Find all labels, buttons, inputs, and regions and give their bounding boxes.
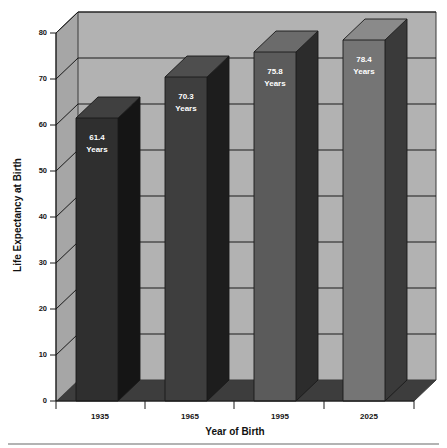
bar-label-2025-unit: Years <box>353 67 375 76</box>
bar-label-1995-value: 75.8 <box>267 67 283 76</box>
y-tick-label-70: 70 <box>39 74 47 83</box>
bar-2025-front <box>343 40 385 401</box>
bar-label-1935-value: 61.4 <box>89 133 105 142</box>
y-tick-label-20: 20 <box>39 304 47 313</box>
bar-label-1935-unit: Years <box>86 145 108 154</box>
bar-1935[interactable] <box>76 97 140 401</box>
y-axis-title: Life Expectancy at Birth <box>12 158 23 272</box>
x-axis: 1935 1965 1995 2025 Year of Birth <box>56 401 414 437</box>
y-tick-label-60: 60 <box>39 120 47 129</box>
bar-label-1965-value: 70.3 <box>178 92 194 101</box>
x-tick-label-1965: 1965 <box>181 412 199 421</box>
y-axis: 0 10 20 30 40 50 60 70 80 Life Expectanc… <box>12 28 56 405</box>
bar-2025[interactable] <box>343 19 407 401</box>
x-tick-label-2025: 2025 <box>360 412 378 421</box>
bar-label-1965-unit: Years <box>175 104 197 113</box>
bar-1935-side <box>118 97 140 401</box>
x-tick-label-1935: 1935 <box>91 412 109 421</box>
chart-figure: 0 10 20 30 40 50 60 70 80 Life Expectanc… <box>0 0 447 448</box>
bar-1965-front <box>165 77 207 401</box>
y-tick-label-10: 10 <box>39 350 47 359</box>
bar-label-1995-unit: Years <box>264 79 286 88</box>
bar-label-2025-value: 78.4 <box>356 55 372 64</box>
y-tick-label-50: 50 <box>39 166 47 175</box>
bar-1995-side <box>296 31 318 401</box>
y-tick-label-80: 80 <box>39 28 47 37</box>
y-tick-label-40: 40 <box>39 212 47 221</box>
x-axis-title: Year of Birth <box>205 426 264 437</box>
bar-2025-side <box>385 19 407 401</box>
life-expectancy-3d-bar-chart: 0 10 20 30 40 50 60 70 80 Life Expectanc… <box>0 0 447 448</box>
bar-1935-front <box>76 118 118 401</box>
bar-1995-front <box>254 52 296 401</box>
y-tick-label-30: 30 <box>39 258 47 267</box>
y-tick-label-0: 0 <box>43 396 47 405</box>
x-tick-label-1995: 1995 <box>271 412 289 421</box>
bar-1965-side <box>207 56 229 401</box>
